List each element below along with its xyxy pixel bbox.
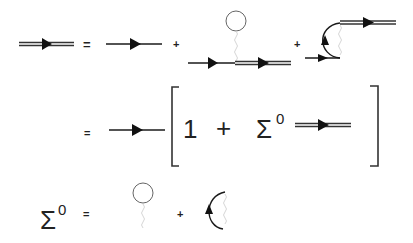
arrow-icon (130, 38, 141, 50)
left-bracket (172, 87, 179, 166)
sigma-superscript: 0 (276, 110, 284, 127)
arrow-icon (42, 38, 52, 50)
hartree-tadpole-diagram (188, 11, 291, 69)
sigma-superscript: 0 (58, 201, 66, 218)
loop-circle (133, 183, 153, 203)
arrow-icon (363, 17, 374, 28)
arrow-icon (208, 57, 218, 69)
full-propagator (295, 119, 351, 131)
bare-propagator (109, 124, 165, 136)
feynman-diagram-equation: = + + = 1 + Σ 0 Σ 0 = (0, 0, 413, 243)
hartree-loop (133, 183, 153, 228)
equals-sign: = (83, 37, 91, 52)
full-propagator-lhs (19, 38, 74, 50)
plus-sign: + (177, 208, 183, 220)
bare-propagator (106, 38, 162, 50)
number-one: 1 (183, 114, 197, 144)
plus-sign: + (294, 38, 300, 50)
arrow-icon (205, 204, 213, 214)
wavy-interaction-line (224, 194, 227, 224)
arrow-icon (132, 124, 143, 136)
fock-arc (205, 192, 227, 229)
sigma-symbol: Σ (256, 114, 272, 144)
sigma-symbol: Σ (40, 205, 56, 235)
right-bracket (370, 86, 378, 166)
arrow-icon (318, 54, 328, 62)
arrow-icon (258, 57, 269, 69)
loop-circle (226, 11, 246, 31)
equals-sign: = (84, 127, 90, 139)
plus-sign: + (173, 38, 179, 50)
arrow-icon (318, 119, 329, 131)
wavy-interaction-line (339, 25, 342, 55)
wavy-interaction-line (142, 204, 145, 228)
plus-sign: + (216, 113, 231, 143)
equals-sign: = (83, 208, 89, 220)
wavy-interaction-line (235, 31, 238, 61)
fock-exchange-diagram (305, 17, 396, 62)
